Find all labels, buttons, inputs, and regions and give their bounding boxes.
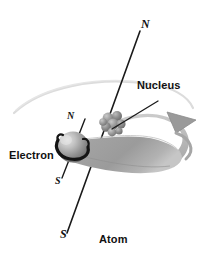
electron-south-label: S [55,176,61,186]
axis-south-label: S [60,228,67,240]
atom-diagram-canvas [0,0,209,258]
atom-diagram-figure: N Nucleus N Electron S S Atom [0,0,209,258]
axis-north-label: N [141,18,150,30]
electron-north-label: N [67,111,74,121]
electron-label: Electron [9,150,54,161]
nucleus-label: Nucleus [137,80,181,91]
spin-axis-line [67,31,140,233]
atom-title-label: Atom [99,234,128,245]
